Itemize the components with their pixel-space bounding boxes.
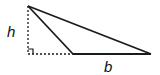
right-angle-marker-icon [28, 49, 33, 54]
base-label: b [104, 58, 112, 75]
triangle-side-long [28, 6, 151, 54]
height-label: h [7, 23, 15, 40]
triangle-diagram: h b [0, 0, 160, 75]
triangle-side-short [28, 6, 73, 54]
